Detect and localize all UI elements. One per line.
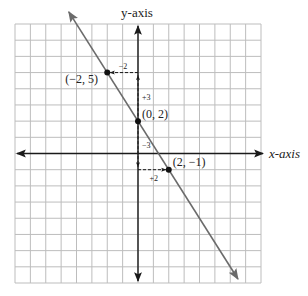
point-label: (0, 2) bbox=[142, 107, 168, 121]
step-label: +3 bbox=[142, 93, 151, 102]
point-label: (−2, 5) bbox=[65, 72, 98, 86]
data-point bbox=[135, 118, 141, 124]
x-axis-label: x-axis bbox=[268, 146, 300, 161]
chart: +3−2−3+2 (−2, 5)(0, 2)(2, −1) y-axis x-a… bbox=[0, 0, 308, 296]
data-point bbox=[166, 167, 172, 173]
step-label: −2 bbox=[119, 62, 128, 71]
data-point bbox=[104, 70, 110, 76]
point-label: (2, −1) bbox=[173, 155, 206, 169]
step-label: +2 bbox=[149, 174, 158, 183]
axes bbox=[17, 26, 263, 281]
y-axis-label: y-axis bbox=[121, 5, 153, 20]
step-label: −3 bbox=[142, 141, 151, 150]
